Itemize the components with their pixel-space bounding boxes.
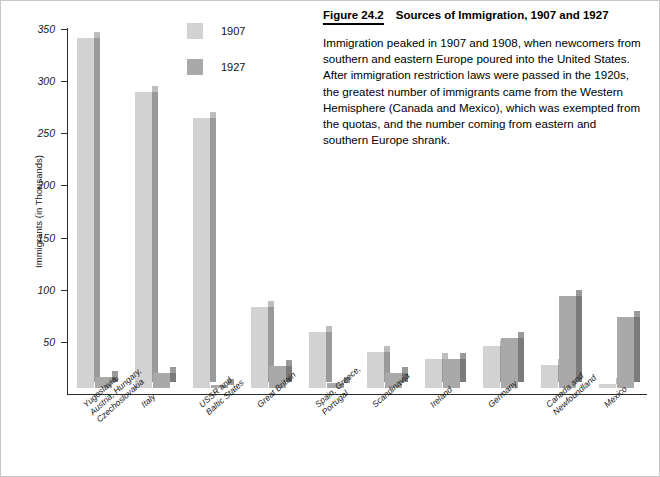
bar-front-face [309,332,326,388]
bar-top-face [384,346,390,352]
bar-1907-3 [251,307,268,388]
bar-front-face [153,373,170,388]
bar-top-face [210,112,216,118]
legend-item-1927: 1927 [187,59,245,75]
bar-1907-6 [425,359,442,388]
bar-side-face [634,311,640,382]
bar-side-face [326,326,332,382]
bar-side-face [518,332,524,382]
bar-1907-5 [367,352,384,389]
bar-top-face [170,367,176,373]
legend-label-1927: 1927 [221,61,245,73]
figure-page: Immigrants (in Thousands) 50100150200250… [0,0,660,477]
bar-top-face [460,353,466,359]
bar-top-face [268,301,274,307]
figure-caption: Figure 24.2 Sources of Immigration, 1907… [323,9,643,148]
bar-top-face [326,326,332,332]
legend-swatch-icon-1927 [187,59,203,75]
bar-1907-1 [135,92,152,388]
bar-front-face [617,317,634,388]
bar-side-face [94,32,100,382]
bar-front-face [599,384,616,388]
bar-1907-4 [309,332,326,388]
bar-front-face [367,352,384,389]
bar-front-face [541,365,558,388]
bar-top-face [152,86,158,92]
bar-side-face [210,112,216,382]
bar-front-face [443,359,460,388]
bar-front-face [193,118,210,388]
legend-item-1907: 1907 [187,23,245,39]
chart-legend: 1907 1927 [187,23,245,95]
bar-front-face [483,346,500,388]
bar-1907-0 [77,38,94,388]
legend-swatch-icon-1907 [187,23,203,39]
bar-1927-9 [617,317,634,388]
caption-heading: Figure 24.2 Sources of Immigration, 1907… [323,9,643,28]
caption-figure-number: Figure 24.2 [323,9,384,25]
bar-front-face [135,92,152,388]
bar-1907-9 [599,384,616,388]
bar-front-face [77,38,94,388]
bar-top-face [576,290,582,296]
bar-front-face [425,359,442,388]
caption-title: Sources of Immigration, 1907 and 1927 [396,9,609,21]
caption-body-text: Immigration peaked in 1907 and 1908, whe… [323,35,643,148]
bar-side-face [152,86,158,382]
bar-top-face [286,360,292,366]
bar-1907-8 [541,365,558,388]
bar-front-face [251,307,268,388]
bar-top-face [634,311,640,317]
bar-1927-1 [153,373,170,388]
bar-1927-6 [443,359,460,388]
bar-top-face [94,32,100,38]
bar-1907-2 [193,118,210,388]
bar-top-face [518,332,524,338]
bar-1907-7 [483,346,500,388]
legend-label-1907: 1907 [221,25,245,37]
